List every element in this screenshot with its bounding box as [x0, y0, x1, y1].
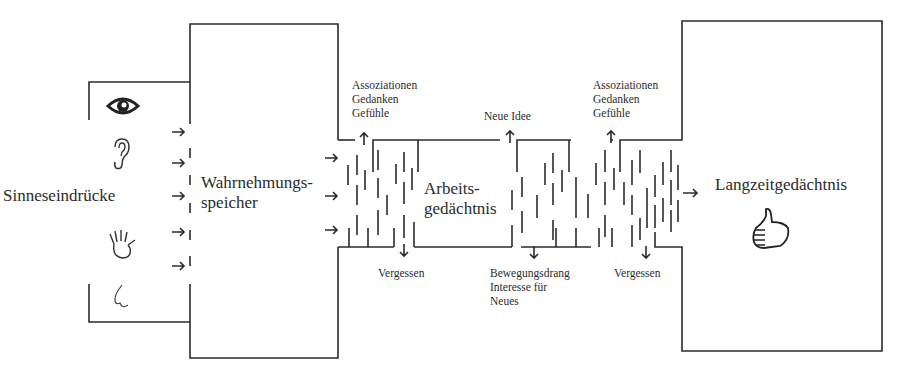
annotation-line: Gefühle [352, 106, 417, 120]
channel-arrows [325, 154, 337, 234]
sensory-memory-label-line1: Wahrnehmungs- [201, 173, 313, 193]
working-memory-label-line1: Arbeits- [424, 179, 497, 199]
annotation-bottom-middle: Bewegungsdrang Interesse für Neues [490, 266, 570, 308]
senses-label: Sinneseindrücke [3, 186, 115, 206]
sensory-memory-label-line2: speicher [201, 193, 313, 213]
channel-1 [338, 140, 418, 247]
annotation-line: Gedanken [593, 92, 658, 106]
annotation-bottom-right: Vergessen [614, 266, 660, 280]
annotation-top-left: Assoziationen Gedanken Gefühle [352, 78, 417, 120]
eye-icon [106, 95, 140, 117]
annotation-bottom-left: Vergessen [378, 266, 424, 280]
ltm-arrow [683, 189, 697, 197]
annotation-top-middle: Neue Idee [484, 109, 531, 123]
annotation-line: Gefühle [593, 106, 658, 120]
channel-2 [512, 150, 678, 247]
working-memory-label-line2: gedächtnis [424, 199, 497, 219]
hand-icon [106, 228, 140, 260]
annotation-line: Neues [490, 294, 570, 308]
sensory-memory-label: Wahrnehmungs- speicher [201, 173, 313, 212]
annotation-line: Interesse für [490, 280, 570, 294]
input-arrows [172, 128, 184, 270]
annotation-line: Gedanken [352, 92, 417, 106]
nose-icon [110, 283, 132, 311]
annotation-line: Assoziationen [593, 78, 658, 92]
ear-icon [111, 137, 131, 171]
working-memory-label: Arbeits- gedächtnis [424, 179, 497, 218]
thumbs-up-icon [750, 206, 792, 250]
annotation-top-right: Assoziationen Gedanken Gefühle [593, 78, 658, 120]
annotation-line: Assoziationen [352, 78, 417, 92]
annotation-line: Bewegungsdrang [490, 266, 570, 280]
long-term-memory-label: Langzeitgedächtnis [715, 175, 847, 195]
